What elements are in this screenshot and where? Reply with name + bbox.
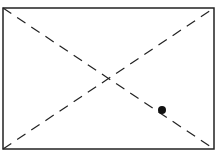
diagram-canvas xyxy=(0,0,217,152)
point-marker xyxy=(158,106,166,114)
